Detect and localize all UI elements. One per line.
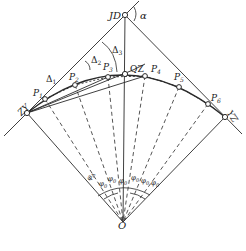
label-phi0-1: φ0 (99, 180, 108, 189)
svg-text:P6: P6 (210, 93, 221, 104)
svg-text:φ0: φ0 (131, 174, 140, 183)
svg-text:Δ3: Δ3 (112, 45, 123, 56)
curve-layout-diagram: JD α O ZY YZ QZ P1 P2 P3 P4 P5 P6 Δ1 Δ2 … (0, 0, 246, 251)
label-o: O (118, 220, 126, 231)
svg-text:P3: P3 (102, 62, 113, 73)
diagram-canvas: JD α O ZY YZ QZ P1 P2 P3 P4 P5 P6 Δ1 Δ2 … (0, 0, 246, 251)
point-qz (122, 71, 127, 76)
label-phi0-3: φ0 (119, 177, 128, 186)
svg-text:P1: P1 (32, 88, 43, 99)
radius-zy (27, 113, 123, 222)
radius-p1 (45, 99, 123, 222)
point-p6 (206, 102, 211, 107)
label-phi0-6: φ0 (151, 179, 160, 188)
point-p2 (73, 83, 78, 88)
chord-zy-p4 (27, 76, 145, 113)
svg-text:φ0: φ0 (99, 180, 108, 189)
radius-p4 (123, 76, 145, 222)
bisector-jd-o (123, 15, 125, 222)
point-jd (122, 12, 127, 17)
label-phi0-4: φ0 (131, 174, 140, 183)
svg-text:P4: P4 (150, 64, 161, 75)
point-p3 (106, 75, 111, 80)
label-p4: P4 (150, 64, 161, 75)
radius-p2 (75, 85, 123, 222)
curve-arc (27, 75, 225, 117)
point-p5 (177, 85, 182, 90)
angle-arc-alpha (134, 7, 136, 21)
label-delta1: Δ1 (46, 74, 56, 85)
label-phi0-2: φ0 (108, 175, 117, 184)
svg-text:φ0: φ0 (108, 175, 117, 184)
label-qz: QZ (130, 64, 144, 74)
point-p1 (43, 97, 48, 102)
label-p3: P3 (102, 62, 113, 73)
svg-text:φ0: φ0 (119, 177, 128, 186)
svg-text:Δ2: Δ2 (91, 55, 102, 66)
label-delta3: Δ3 (112, 45, 123, 56)
label-p6: P6 (210, 93, 221, 104)
label-delta2: Δ2 (91, 55, 102, 66)
label-phi0-5: φ0 (141, 177, 150, 186)
label-alpha: α (140, 10, 147, 21)
radius-yz (123, 117, 225, 222)
label-jd: JD (107, 10, 121, 21)
svg-text:Δ1: Δ1 (46, 74, 56, 85)
svg-text:φ0: φ0 (151, 179, 160, 188)
svg-text:φ0: φ0 (141, 177, 150, 186)
label-p2: P2 (68, 72, 79, 83)
label-p1: P1 (32, 88, 43, 99)
label-yz: YZ (225, 108, 241, 124)
radius-p5 (123, 87, 179, 222)
svg-text:P2: P2 (68, 72, 79, 83)
point-p4 (143, 74, 148, 79)
radius-p6 (123, 104, 208, 222)
angle-arc-delta2 (85, 61, 90, 70)
